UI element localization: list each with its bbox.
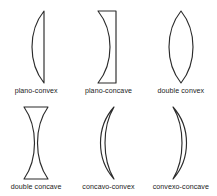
concavo-convex-lens-art bbox=[72, 105, 144, 181]
concavo-convex-meniscus-shape bbox=[101, 107, 115, 179]
plano-convex-lens-art bbox=[0, 9, 72, 85]
lens-types-diagram: plano-convex plano-concave double convex bbox=[0, 0, 217, 196]
lens-item-concavo-convex: concavo-convex bbox=[72, 98, 144, 196]
lens-label-double-convex: double convex bbox=[157, 87, 204, 96]
lens-label-plano-concave: plano-concave bbox=[85, 87, 132, 96]
double-convex-lens-shape bbox=[169, 11, 193, 83]
plano-concave-lens-shape bbox=[98, 11, 116, 83]
lens-label-convexo-concave: convexo-concave bbox=[153, 183, 209, 192]
lens-item-plano-concave: plano-concave bbox=[72, 0, 144, 98]
lens-grid: plano-convex plano-concave double convex bbox=[0, 0, 217, 196]
lens-item-convexo-concave: convexo-concave bbox=[145, 98, 217, 196]
double-concave-lens-shape bbox=[24, 107, 48, 179]
convexo-concave-meniscus-shape bbox=[173, 107, 187, 179]
double-concave-lens-art bbox=[0, 105, 72, 181]
lens-label-double-concave: double concave bbox=[11, 183, 62, 192]
lens-label-concavo-convex: concavo-convex bbox=[82, 183, 134, 192]
lens-label-plano-convex: plano-convex bbox=[15, 87, 58, 96]
lens-item-double-convex: double convex bbox=[145, 0, 217, 98]
plano-convex-lens-shape bbox=[32, 11, 44, 83]
double-convex-lens-art bbox=[145, 9, 217, 85]
plano-concave-lens-art bbox=[72, 9, 144, 85]
lens-item-double-concave: double concave bbox=[0, 98, 72, 196]
convexo-concave-lens-art bbox=[145, 105, 217, 181]
lens-item-plano-convex: plano-convex bbox=[0, 0, 72, 98]
